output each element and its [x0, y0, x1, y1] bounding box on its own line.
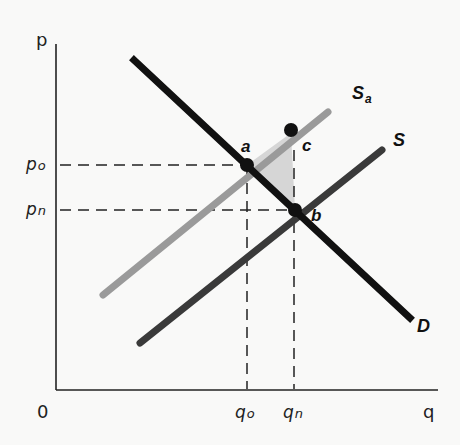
supply-demand-diagram: p q 0 po pn qo qn D Sa S a b c: [0, 0, 460, 445]
curve-label-s: S: [393, 130, 405, 150]
point-c-marker: [284, 123, 298, 137]
q-o-label: qo: [235, 402, 255, 422]
p-n-label: pn: [25, 199, 46, 219]
origin-label: 0: [37, 401, 48, 422]
q-n-label: qn: [283, 402, 303, 422]
point-label-b: b: [311, 206, 321, 225]
point-label-a: a: [241, 137, 250, 156]
y-axis-label: p: [36, 29, 47, 50]
p-o-label: po: [25, 154, 46, 174]
x-axis-label: q: [423, 401, 434, 422]
curve-label-d: D: [417, 316, 430, 336]
curve-label-sa: Sa: [352, 83, 372, 106]
point-label-c: c: [302, 136, 312, 155]
point-b-marker: [288, 203, 302, 217]
point-a-marker: [240, 158, 254, 172]
